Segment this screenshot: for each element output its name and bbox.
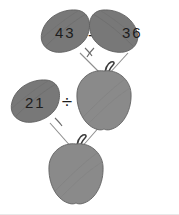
leaf-21: 21 [11, 80, 62, 126]
leaf-36-stem [87, 48, 94, 57]
apple-math-diagram: 43 – 36 [0, 0, 179, 215]
operator-divide-symbol: ÷ [62, 91, 72, 112]
leaf-21-stem [55, 118, 62, 126]
leaf-43-label: 43 [55, 24, 76, 41]
leaf-36-label: 36 [122, 24, 143, 41]
operator-divide: ÷ [62, 91, 72, 112]
leaf-21-label: 21 [25, 94, 46, 111]
apple-bottom [49, 135, 103, 204]
apple-bottom-shape [49, 144, 103, 204]
apple-middle [77, 62, 131, 130]
apple-middle-shape [77, 71, 131, 130]
leaf-43: 43 [41, 10, 92, 56]
leaf-36: 36 [87, 10, 143, 57]
